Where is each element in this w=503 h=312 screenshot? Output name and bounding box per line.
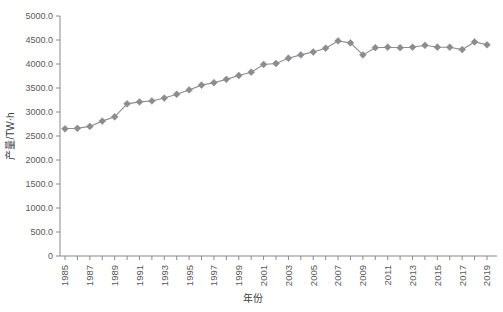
y-tick-label: 2500.0	[25, 131, 53, 141]
data-point-marker: 2019: 4400	[484, 41, 491, 48]
data-point-marker: 2003: 4120	[285, 55, 292, 62]
x-axis-title: 年份	[243, 292, 263, 304]
data-point-marker: 2006: 4330	[322, 45, 329, 52]
data-point-marker: 2002: 4010	[273, 60, 280, 67]
y-axis-title: 产量/TW·h	[4, 112, 16, 159]
data-point-marker: 1997: 3610	[211, 79, 218, 86]
data-point-marker: 2007: 4480	[335, 38, 342, 45]
y-tick-label: 4500.0	[25, 35, 53, 45]
x-tick-label: 2007	[332, 265, 343, 286]
data-point-marker: 1987: 2700	[86, 123, 93, 130]
data-point-marker: 2005: 4250	[310, 49, 317, 56]
data-point-marker: 2001: 3990	[260, 61, 267, 68]
x-tick-label: 2015	[432, 265, 443, 286]
data-point-marker: 2016: 4350	[446, 44, 453, 51]
data-point-marker: 1985: 2650	[62, 125, 69, 132]
x-tick-label: 2013	[407, 265, 418, 286]
x-tick-label: 2011	[382, 265, 393, 285]
data-point-marker: 2004: 4190	[297, 51, 304, 58]
x-tick-label: 2017	[457, 265, 468, 286]
x-tick-label: 2009	[357, 265, 368, 286]
x-tick-label: 2003	[283, 265, 294, 286]
x-tick-label: 1993	[159, 265, 170, 286]
data-point-marker: 2000: 3830	[248, 69, 255, 76]
x-tick-label: 1989	[109, 265, 120, 286]
data-point-marker: 2017: 4300	[459, 46, 466, 53]
x-tick-label: 2019	[481, 265, 492, 286]
x-tick-label: 1995	[184, 265, 195, 286]
x-tick-label: 1991	[134, 265, 145, 286]
x-tick-label: 1987	[84, 265, 95, 286]
chart-container: 5000.04500.04000.03500.03000.02500.02000…	[0, 0, 503, 312]
x-tick-label: 2001	[258, 265, 269, 286]
data-point-marker: 1996: 3560	[198, 82, 205, 89]
data-point-marker: 1995: 3460	[186, 87, 193, 94]
y-tick-label: 3500.0	[25, 83, 53, 93]
y-tick-label: 1500.0	[25, 179, 53, 189]
y-tick-label: 2000.0	[25, 155, 53, 165]
data-point-marker: 2011: 4350	[384, 44, 391, 51]
y-tick-label: 3000.0	[25, 107, 53, 117]
y-tick-label: 5000.0	[25, 11, 53, 21]
line-chart: 5000.04500.04000.03500.03000.02500.02000…	[0, 0, 503, 312]
y-tick-label: 0	[48, 251, 53, 261]
data-point-marker: 2010: 4340	[372, 44, 379, 51]
data-point-marker: 1992: 3230	[148, 98, 155, 105]
y-tick-label: 500.0	[30, 227, 53, 237]
x-tick-label: 1999	[233, 265, 244, 286]
data-point-marker: 2012: 4340	[397, 44, 404, 51]
x-tick-label: 2005	[308, 265, 319, 286]
data-point-marker: 1999: 3760	[235, 72, 242, 79]
data-point-marker: 2018: 4460	[471, 39, 478, 46]
data-point-marker: 1986: 2660	[74, 125, 81, 132]
data-line	[65, 41, 487, 129]
y-tick-label: 1000.0	[25, 203, 53, 213]
data-point-group: 1985: 26501986: 26601987: 27001988: 2810…	[62, 38, 491, 133]
data-point-marker: 1988: 2810	[99, 118, 106, 125]
data-point-marker: 2015: 4350	[434, 44, 441, 51]
data-point-marker: 1998: 3680	[223, 76, 230, 83]
data-point-marker: 2014: 4390	[422, 42, 429, 49]
data-point-marker: 2013: 4350	[409, 44, 416, 51]
data-point-marker: 1991: 3210	[136, 99, 143, 106]
y-tick-label: 4000.0	[25, 59, 53, 69]
data-point-marker: 1993: 3290	[161, 95, 168, 102]
data-point-marker: 1994: 3370	[173, 91, 180, 98]
x-tick-label: 1985	[59, 265, 70, 286]
x-tick-label: 1997	[208, 265, 219, 286]
